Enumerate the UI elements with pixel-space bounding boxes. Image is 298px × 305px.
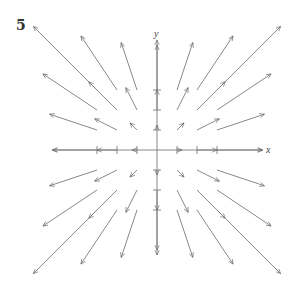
field-arrow — [177, 123, 184, 130]
field-arrow — [177, 190, 188, 212]
field-arrow — [197, 170, 219, 181]
field-arrow — [217, 74, 271, 110]
field-arrow — [177, 43, 193, 90]
field-arrow — [89, 190, 117, 218]
field-arrow — [130, 170, 137, 177]
field-arrow — [126, 190, 137, 212]
field-arrow — [197, 36, 233, 90]
field-arrow — [217, 190, 271, 226]
field-arrow — [217, 26, 281, 90]
field-arrow — [95, 119, 117, 130]
field-arrow — [89, 82, 117, 110]
field-arrow — [33, 26, 97, 90]
field-arrow — [81, 36, 117, 90]
field-arrow — [217, 210, 281, 274]
vector-field-plot: xy — [0, 0, 298, 305]
field-arrow — [197, 119, 219, 130]
field-arrow — [130, 123, 137, 130]
field-arrow — [177, 88, 188, 110]
field-arrow — [33, 210, 97, 274]
axes: xy — [53, 28, 271, 250]
field-arrow — [126, 88, 137, 110]
field-arrow — [217, 170, 264, 186]
field-arrow — [50, 170, 97, 186]
x-axis-label: x — [265, 144, 271, 155]
field-arrow — [177, 170, 184, 177]
field-arrow — [81, 210, 117, 264]
field-arrow — [95, 170, 117, 181]
field-arrow — [197, 210, 233, 264]
y-axis-label: y — [153, 28, 159, 39]
field-arrow — [50, 114, 97, 130]
field-arrow — [121, 43, 137, 90]
field-arrow — [217, 114, 264, 130]
field-arrow — [43, 74, 97, 110]
field-arrow — [43, 190, 97, 226]
field-arrow — [177, 210, 193, 257]
field-arrow — [121, 210, 137, 257]
